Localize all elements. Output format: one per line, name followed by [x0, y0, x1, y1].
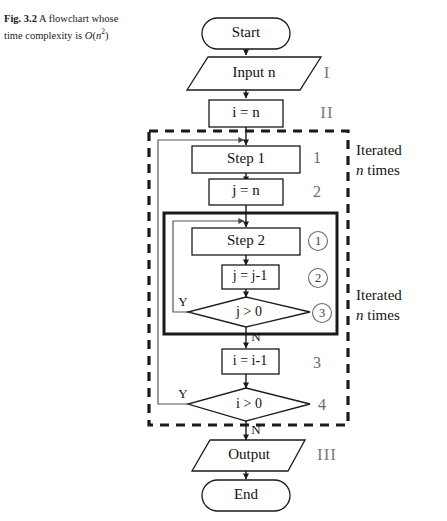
annotation-inner-loop-var: n [356, 307, 364, 323]
circled-number-cond-j: 3 [319, 306, 325, 320]
step-number-cond-i: 4 [318, 396, 326, 413]
edge-label-inner-yes: Y [178, 294, 188, 309]
annotation-inner-loop-rest: times [364, 307, 400, 323]
node-end-label: End [234, 486, 259, 502]
edge-label-outer-no: N [251, 422, 261, 437]
circled-number-step2: 1 [315, 234, 321, 248]
step-number-dec-i: 3 [313, 354, 321, 371]
node-output-label: Output [228, 446, 271, 462]
node-dec-i-label: i = i-1 [233, 353, 267, 368]
annotation-inner-loop-line1: Iterated [356, 287, 402, 303]
node-cond-j-label: j > 0 [235, 304, 262, 319]
node-cond-i-label: i > 0 [236, 396, 262, 411]
node-step2-label: Step 2 [227, 232, 265, 248]
flowchart-canvas: Start Input n I i = n II Step 1 1 j = n … [0, 0, 447, 521]
roman-numeral-init-i: II [320, 103, 333, 122]
circled-number-dec-j: 2 [315, 271, 321, 285]
node-init-i-label: i = n [232, 104, 260, 120]
roman-numeral-output: III [317, 445, 337, 464]
annotation-outer-loop-rest: times [364, 162, 400, 178]
step-number-step1: 1 [313, 149, 321, 166]
edge-label-outer-yes: Y [178, 386, 188, 401]
annotation-outer-loop-line1: Iterated [356, 142, 402, 158]
node-init-j-label: j = n [231, 182, 260, 198]
annotation-inner-loop-line2: n times [356, 307, 400, 323]
step-number-init-j: 2 [313, 183, 321, 200]
node-dec-j-label: j = j-1 [232, 268, 267, 283]
node-input-label: Input n [233, 64, 276, 80]
roman-numeral-input: I [324, 63, 331, 82]
annotation-outer-loop-line2: n times [356, 162, 400, 178]
node-step1-label: Step 1 [227, 150, 265, 166]
edge-label-inner-no: N [251, 329, 261, 344]
node-start-label: Start [232, 24, 261, 40]
figure-page: Fig. 3.2 A flowchart whose time complexi… [0, 0, 447, 521]
annotation-outer-loop-var: n [356, 162, 364, 178]
